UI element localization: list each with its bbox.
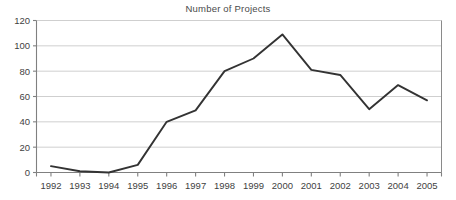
y-tick-label: 80 [19,66,30,77]
y-tick-label: 60 [19,91,30,102]
x-tick-label: 1993 [69,180,90,191]
y-axis-tick-labels: 020406080100120 [14,15,30,178]
x-tick-label: 1992 [40,180,61,191]
x-tick-label: 2000 [272,180,293,191]
x-tick-label: 1994 [98,180,119,191]
x-axis-tick-marks [37,173,442,177]
x-tick-label: 1999 [243,180,264,191]
x-tick-label: 2002 [330,180,351,191]
chart-container: Number of Projects 020406080100120 19921… [0,0,456,200]
y-tick-label: 40 [19,116,30,127]
x-axis-tick-labels: 1992199319941995199619971998199920002001… [40,180,437,191]
x-tick-label: 1996 [156,180,177,191]
x-tick-label: 2001 [301,180,322,191]
line-chart-plot: 020406080100120 199219931994199519961997… [0,0,456,200]
x-tick-label: 1995 [127,180,148,191]
gridlines-group [37,21,442,173]
x-tick-label: 2005 [416,180,437,191]
x-tick-label: 1997 [185,180,206,191]
x-tick-label: 2003 [359,180,380,191]
y-tick-label: 0 [25,167,30,178]
data-series-line [51,34,427,172]
y-tick-label: 120 [14,15,30,26]
y-tick-label: 100 [14,40,30,51]
y-tick-label: 20 [19,142,30,153]
x-tick-label: 2004 [388,180,409,191]
x-tick-label: 1998 [214,180,235,191]
